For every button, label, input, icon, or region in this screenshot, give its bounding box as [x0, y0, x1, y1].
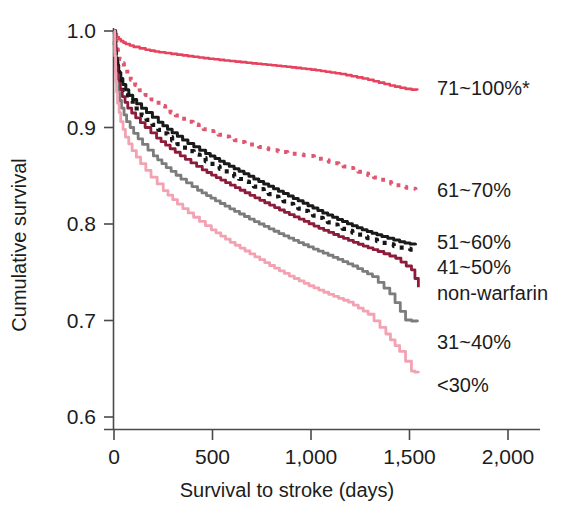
legend-label: <30% [437, 374, 489, 396]
x-tick-marks [114, 430, 508, 441]
x-tick-label: 500 [195, 445, 230, 468]
legend-label: 61~70% [437, 179, 511, 201]
y-tick-label: 0.8 [67, 212, 96, 235]
y-tick-label: 1.0 [67, 19, 96, 42]
y-tick-label: 0.9 [67, 116, 96, 139]
x-axis-title: Survival to stroke (days) [180, 479, 395, 501]
chart-canvas: 0.60.70.80.91.0 Cumulative survival 0500… [0, 0, 571, 515]
y-axis-title: Cumulative survival [8, 158, 30, 331]
survival-chart-figure: 0.60.70.80.91.0 Cumulative survival 0500… [0, 0, 571, 515]
survival-curves [114, 31, 418, 373]
curve-61-70- [114, 31, 415, 190]
legend-label: 51~60% [437, 231, 511, 253]
y-tick-marks [104, 31, 114, 417]
legend-label: 31~40% [437, 331, 511, 353]
y-tick-label: 0.7 [67, 309, 96, 332]
x-tick-label: 2,000 [482, 445, 535, 468]
x-tick-label: 1,000 [285, 445, 338, 468]
curve-71-100- [114, 31, 417, 90]
legend-label: non-warfarin [437, 282, 548, 304]
x-tick-label: 0 [108, 445, 120, 468]
x-axis-group: 05001,0001,5002,000 Survival to stroke (… [104, 430, 540, 502]
y-tick-labels: 0.60.70.80.91.0 [67, 19, 96, 428]
legend-label: 41~50% [437, 256, 511, 278]
legend-label: 71~100%* [437, 77, 530, 99]
x-tick-label: 1,500 [383, 445, 436, 468]
x-tick-labels: 05001,0001,5002,000 [108, 445, 534, 468]
legend-labels: 71~100%*61~70%51~60%41~50%non-warfarin31… [437, 77, 548, 396]
curve-31-40- [114, 31, 417, 322]
y-tick-label: 0.6 [67, 405, 96, 428]
y-axis-group: 0.60.70.80.91.0 Cumulative survival [8, 19, 114, 430]
